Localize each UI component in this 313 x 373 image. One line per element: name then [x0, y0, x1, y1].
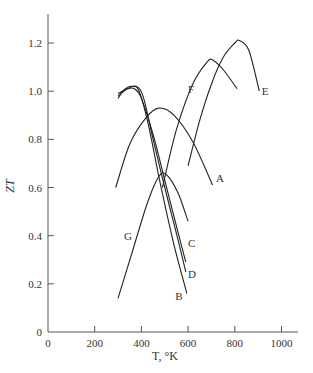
curve-label-g: G [124, 230, 132, 242]
curve-label-c: C [188, 237, 195, 249]
x-tick-label: 1000 [271, 337, 294, 349]
y-tick-label: 0.4 [28, 230, 42, 242]
curve-label-a: A [216, 172, 224, 184]
x-tick-label: 600 [180, 337, 197, 349]
curves [116, 40, 260, 298]
y-tick-label: 0.2 [28, 278, 42, 290]
ticks: 0200400600800100000.20.40.60.81.01.2 [28, 37, 293, 349]
y-tick-label: 1.0 [28, 85, 42, 97]
x-tick-label: 400 [133, 337, 150, 349]
curve-label-e: E [262, 85, 269, 97]
y-axis-title: ZT [3, 178, 17, 193]
y-tick-label: 1.2 [28, 37, 42, 49]
curve-d [118, 86, 186, 272]
curve-label-b: B [175, 290, 182, 302]
y-tick-label: 0 [37, 326, 43, 338]
curve-label-d: D [188, 268, 196, 280]
x-tick-label: 200 [86, 337, 103, 349]
x-tick-label: 800 [227, 337, 244, 349]
curve-label-f: F [188, 83, 194, 95]
x-tick-label: 0 [45, 337, 51, 349]
zt-vs-temperature-chart: 0200400600800100000.20.40.60.81.01.2 ABC… [0, 0, 313, 373]
curve-labels: ABCDEFG [124, 83, 269, 302]
y-tick-label: 0.8 [28, 133, 42, 145]
x-axis-title: T, °K [152, 349, 178, 363]
axes [48, 14, 298, 332]
curve-f [162, 59, 237, 187]
curve-e [188, 40, 259, 166]
y-tick-label: 0.6 [28, 182, 42, 194]
